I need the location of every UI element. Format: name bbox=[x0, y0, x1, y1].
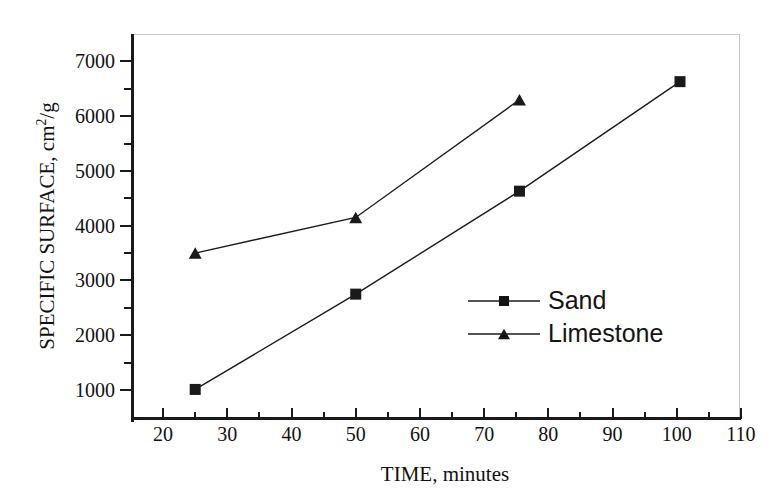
y-axis-title-prefix: SPECIFIC SURFACE, cm bbox=[35, 125, 59, 349]
marker-square bbox=[675, 76, 686, 87]
legend-sample bbox=[466, 319, 542, 349]
series-line bbox=[195, 100, 519, 253]
legend-item-sand[interactable]: Sand bbox=[466, 286, 676, 319]
legend-sample bbox=[466, 286, 542, 316]
legend-item-limestone[interactable]: Limestone bbox=[466, 319, 676, 352]
chart-page: 1000200030004000500060007000 20304050607… bbox=[0, 0, 775, 503]
marker-square bbox=[350, 289, 361, 300]
marker-square bbox=[190, 384, 201, 395]
y-axis-title: SPECIFIC SURFACE, cm2/g bbox=[34, 16, 60, 436]
marker-square bbox=[514, 186, 525, 197]
chart-legend: SandLimestone bbox=[466, 286, 676, 352]
marker-triangle bbox=[513, 94, 526, 105]
y-axis-title-exponent: 2 bbox=[34, 119, 49, 126]
series-limestone bbox=[189, 94, 526, 259]
legend-label: Limestone bbox=[548, 318, 663, 348]
legend-label: Sand bbox=[548, 285, 606, 315]
x-axis-title: TIME, minutes bbox=[330, 462, 560, 487]
data-series-layer bbox=[0, 0, 775, 503]
marker-triangle bbox=[189, 247, 202, 258]
y-axis-title-suffix: /g bbox=[35, 102, 59, 118]
marker-square bbox=[499, 296, 509, 306]
